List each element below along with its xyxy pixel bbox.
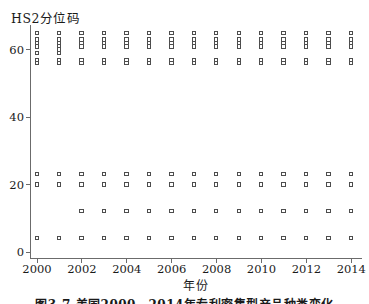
scatter-marker bbox=[281, 209, 285, 213]
scatter-marker bbox=[349, 236, 353, 240]
scatter-marker bbox=[57, 182, 61, 186]
scatter-marker bbox=[304, 31, 308, 35]
scatter-marker bbox=[281, 172, 285, 176]
scatter-marker bbox=[326, 209, 330, 213]
scatter-marker bbox=[281, 31, 285, 35]
scatter-marker bbox=[259, 31, 263, 35]
scatter-marker bbox=[281, 44, 285, 48]
scatter-marker bbox=[147, 44, 151, 48]
scatter-marker bbox=[124, 31, 128, 35]
scatter-marker bbox=[124, 61, 128, 65]
scatter-marker bbox=[79, 236, 83, 240]
scatter-marker bbox=[35, 236, 39, 240]
scatter-marker bbox=[124, 182, 128, 186]
scatter-marker bbox=[259, 44, 263, 48]
scatter-marker bbox=[102, 236, 106, 240]
scatter-marker bbox=[304, 172, 308, 176]
scatter-marker bbox=[214, 209, 218, 213]
scatter-marker bbox=[147, 172, 151, 176]
scatter-marker bbox=[304, 61, 308, 65]
scatter-marker bbox=[79, 31, 83, 35]
scatter-marker bbox=[349, 182, 353, 186]
scatter-marker bbox=[57, 31, 61, 35]
scatter-marker bbox=[57, 51, 61, 55]
scatter-marker bbox=[57, 236, 61, 240]
scatter-marker bbox=[326, 182, 330, 186]
scatter-marker bbox=[102, 172, 106, 176]
scatter-marker bbox=[169, 172, 173, 176]
y-tick bbox=[26, 184, 30, 185]
scatter-marker bbox=[214, 236, 218, 240]
scatter-marker bbox=[192, 236, 196, 240]
scatter-marker bbox=[169, 209, 173, 213]
scatter-marker bbox=[214, 61, 218, 65]
scatter-marker bbox=[237, 31, 241, 35]
scatter-marker bbox=[147, 236, 151, 240]
x-axis-title: 年份 bbox=[30, 276, 362, 293]
scatter-marker bbox=[349, 31, 353, 35]
y-tick bbox=[26, 252, 30, 253]
scatter-marker bbox=[79, 172, 83, 176]
scatter-marker bbox=[79, 209, 83, 213]
y-tick-label: 20 bbox=[0, 178, 24, 192]
scatter-marker bbox=[237, 182, 241, 186]
y-tick bbox=[26, 117, 30, 118]
x-tick-label: 2014 bbox=[333, 262, 369, 276]
scatter-marker bbox=[214, 172, 218, 176]
scatter-marker bbox=[169, 182, 173, 186]
scatter-marker bbox=[192, 44, 196, 48]
scatter-marker bbox=[35, 51, 39, 55]
scatter-marker bbox=[57, 172, 61, 176]
scatter-marker bbox=[147, 31, 151, 35]
scatter-marker bbox=[237, 44, 241, 48]
scatter-marker bbox=[214, 44, 218, 48]
scatter-marker bbox=[102, 44, 106, 48]
scatter-marker bbox=[79, 61, 83, 65]
x-tick-label: 2000 bbox=[19, 262, 55, 276]
scatter-marker bbox=[304, 44, 308, 48]
scatter-marker bbox=[79, 182, 83, 186]
x-tick-label: 2012 bbox=[288, 262, 324, 276]
x-tick-label: 2002 bbox=[64, 262, 100, 276]
scatter-marker bbox=[349, 61, 353, 65]
scatter-marker bbox=[35, 31, 39, 35]
scatter-marker bbox=[102, 31, 106, 35]
scatter-marker bbox=[147, 61, 151, 65]
scatter-marker bbox=[35, 182, 39, 186]
y-tick-label: 40 bbox=[0, 110, 24, 124]
scatter-marker bbox=[169, 61, 173, 65]
scatter-marker bbox=[192, 172, 196, 176]
y-tick-label: 60 bbox=[0, 43, 24, 57]
scatter-marker bbox=[237, 172, 241, 176]
scatter-marker bbox=[349, 209, 353, 213]
scatter-marker bbox=[259, 172, 263, 176]
scatter-marker bbox=[35, 44, 39, 48]
scatter-marker bbox=[259, 61, 263, 65]
scatter-marker bbox=[147, 209, 151, 213]
x-tick-label: 2006 bbox=[154, 262, 190, 276]
scatter-marker bbox=[281, 61, 285, 65]
scatter-marker bbox=[259, 209, 263, 213]
x-tick-label: 2010 bbox=[244, 262, 280, 276]
y-axis-line bbox=[30, 25, 31, 258]
scatter-marker bbox=[237, 209, 241, 213]
scatter-marker bbox=[102, 209, 106, 213]
scatter-marker bbox=[57, 61, 61, 65]
x-axis-line bbox=[30, 258, 362, 259]
scatter-marker bbox=[35, 61, 39, 65]
x-tick-label: 2008 bbox=[199, 262, 235, 276]
scatter-marker bbox=[349, 44, 353, 48]
x-tick-label: 2004 bbox=[109, 262, 145, 276]
scatter-marker bbox=[192, 182, 196, 186]
scatter-marker bbox=[124, 209, 128, 213]
scatter-marker bbox=[326, 31, 330, 35]
figure: HS2分位码 020406020002002200420062008201020… bbox=[0, 0, 369, 304]
scatter-marker bbox=[169, 44, 173, 48]
scatter-marker bbox=[326, 61, 330, 65]
scatter-marker bbox=[281, 236, 285, 240]
scatter-marker bbox=[124, 172, 128, 176]
y-tick-label: 0 bbox=[0, 245, 24, 259]
scatter-marker bbox=[237, 236, 241, 240]
scatter-marker bbox=[192, 209, 196, 213]
scatter-marker bbox=[304, 236, 308, 240]
